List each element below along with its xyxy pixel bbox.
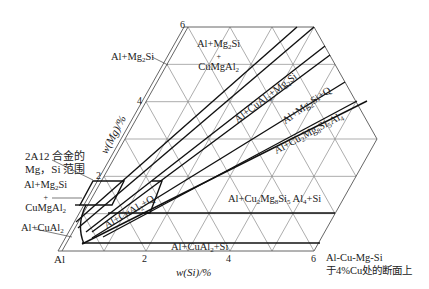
y-tick-6: 6	[180, 19, 185, 30]
title-line-2: 于4%Cu处的断面上	[326, 264, 412, 277]
callout-line-2: Mg，Si 范围	[25, 163, 85, 176]
callout-line-1: 2A12 合金的	[25, 150, 85, 163]
region-al-mg2si-cumgal2-top: Al+Mg2Si+CuMgAl2	[197, 39, 240, 75]
title-line-1: Al-Cu-Mg-Si	[326, 251, 412, 264]
x-tick-6: 6	[311, 253, 316, 264]
region-al-cual2: Al+CuAl2	[21, 222, 64, 237]
diagram-title: Al-Cu-Mg-Si 于4%Cu处的断面上	[326, 251, 412, 277]
x-tick-2: 2	[142, 253, 147, 264]
callout-label: 2A12 合金的 Mg，Si 范围	[25, 150, 85, 176]
origin-label: Al	[54, 253, 65, 265]
region-al-mg2si-cumgal2-left: Al+Mg2Si+CuMgAl2	[24, 180, 67, 216]
y-tick-4: 4	[137, 95, 142, 106]
region-al-cual2-si: Al+CuAl2+Si	[171, 241, 228, 256]
x-axis-label: w(Si)/%	[176, 266, 211, 278]
region-al-mg2si: Al+Mg2Si	[111, 51, 154, 66]
y-tick-2: 2	[96, 170, 101, 181]
region-al-cu2mg8si5al4-si: Al+Cu2Mg8Si5 Al4+Si	[228, 193, 321, 208]
